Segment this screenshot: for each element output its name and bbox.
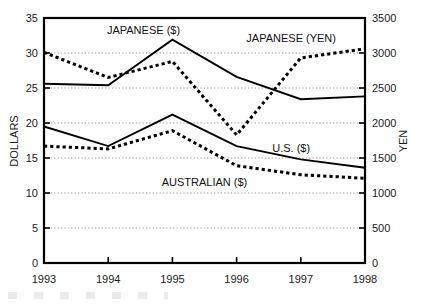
series-label-australian: AUSTRALIAN ($) xyxy=(162,176,248,188)
y-axis-title: DOLLARS xyxy=(8,115,20,166)
y2-tick-label: 1000 xyxy=(372,187,396,199)
series-line-australian xyxy=(44,131,365,179)
y-tick-label: 20 xyxy=(26,117,38,129)
x-tick-label: 1996 xyxy=(224,273,248,285)
y2-tick-label: 0 xyxy=(372,257,378,269)
y-tick-label: 0 xyxy=(32,257,38,269)
series-label-japanese: JAPANESE ($) xyxy=(107,24,180,36)
x-tick-label: 1995 xyxy=(160,273,184,285)
page-edge-artifact xyxy=(8,292,168,299)
y2-tick-label: 1500 xyxy=(372,152,396,164)
x-axis-tick-labels: 199319941995199619971998 xyxy=(32,273,377,285)
series-label-u-s: U.S. ($) xyxy=(272,142,310,154)
x-tick-label: 1997 xyxy=(289,273,313,285)
chart-container: 05101520253035 0500100015002000250030003… xyxy=(0,0,424,304)
right-axis-tick-labels: 0500100015002000250030003500 xyxy=(372,12,396,269)
y2-tick-label: 2000 xyxy=(372,117,396,129)
y2-tick-label: 500 xyxy=(372,222,390,234)
y2-tick-label: 3000 xyxy=(372,47,396,59)
y2-tick-label: 2500 xyxy=(372,82,396,94)
x-tick-label: 1998 xyxy=(353,273,377,285)
x-tick-label: 1994 xyxy=(96,273,120,285)
line-chart: 05101520253035 0500100015002000250030003… xyxy=(0,0,424,304)
y2-axis-title: YEN xyxy=(397,130,409,153)
y-tick-label: 35 xyxy=(26,12,38,24)
y-tick-label: 25 xyxy=(26,82,38,94)
series-line-japanese-yen xyxy=(44,49,365,135)
y-tick-label: 5 xyxy=(32,222,38,234)
y2-tick-label: 3500 xyxy=(372,12,396,24)
x-tick-label: 1993 xyxy=(32,273,56,285)
data-series-group xyxy=(44,40,365,179)
series-label-japanese-yen: JAPANESE (YEN) xyxy=(246,32,336,44)
y-tick-label: 10 xyxy=(26,187,38,199)
left-axis-tick-labels: 05101520253035 xyxy=(26,12,38,269)
y-tick-label: 30 xyxy=(26,47,38,59)
series-line-u-s xyxy=(44,115,365,168)
series-annotations: JAPANESE ($)JAPANESE (YEN)U.S. ($)AUSTRA… xyxy=(107,24,336,188)
y-tick-label: 15 xyxy=(26,152,38,164)
series-line-japanese xyxy=(44,40,365,99)
